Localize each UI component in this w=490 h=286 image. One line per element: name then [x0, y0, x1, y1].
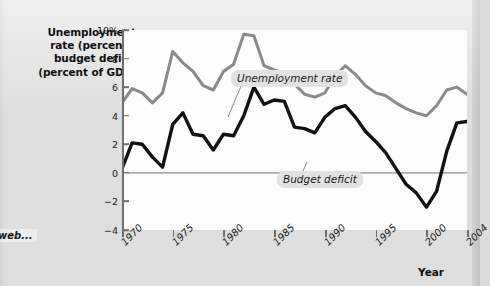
margin-web-note: web... [0, 229, 37, 242]
y-tick-label: 4 [82, 110, 118, 121]
y-tick-label: 8 [82, 53, 118, 64]
y-tick-mark [122, 115, 129, 117]
y-tick-mark [122, 172, 129, 174]
y-tick-mark [122, 201, 129, 203]
series-callout-unemployment-rate: Unemployment rate [231, 70, 348, 87]
y-tick-mark [122, 143, 129, 145]
y-tick-label: 10% [82, 25, 118, 36]
plot-canvas [122, 30, 467, 230]
y-tick-label: 6 [82, 82, 118, 93]
y-axis-tick-labels: 10%86420−2−4 [78, 30, 118, 230]
x-axis-label: Year [418, 266, 444, 278]
y-tick-label: 2 [82, 139, 118, 150]
plot-area [122, 30, 467, 230]
y-tick-mark [122, 29, 129, 31]
series-callout-budget-deficit: Budget deficit [277, 171, 363, 188]
leader-line-unemployment [228, 86, 241, 117]
y-tick-mark [122, 58, 129, 60]
y-tick-mark [122, 86, 129, 88]
y-tick-label: −2 [82, 196, 118, 207]
y-tick-label: 0 [82, 167, 118, 178]
y-tick-label: −4 [82, 225, 118, 236]
series-line-budget-deficit [122, 87, 467, 207]
chart-svg [122, 30, 467, 230]
